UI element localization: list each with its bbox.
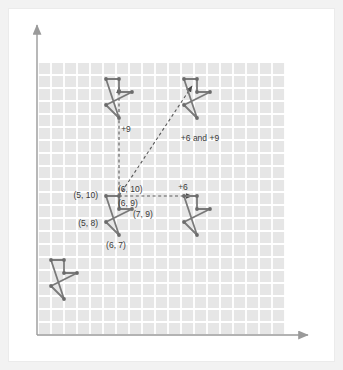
lower-left-shape-vertex bbox=[49, 258, 53, 262]
translation-label-vertical: +9 bbox=[121, 124, 131, 134]
translated-up-shape-vertex bbox=[117, 90, 121, 94]
vertex-label: (5, 10) bbox=[73, 190, 98, 200]
vertex-label: (6, 7) bbox=[106, 240, 126, 250]
translated-up-shape-vertex bbox=[104, 77, 108, 81]
lower-left-shape-vertex bbox=[62, 258, 66, 262]
translated-right-shape-vertex bbox=[182, 220, 186, 224]
original-shape-vertex bbox=[117, 233, 121, 237]
lower-left-shape-vertex bbox=[62, 271, 66, 275]
translation-diagram: (5, 10)(6, 10)(6, 9)(7, 9)(5, 8)(6, 7)+9… bbox=[0, 0, 343, 370]
vertex-label: (6, 10) bbox=[118, 184, 143, 194]
translated-diagonal-shape-vertex bbox=[195, 90, 199, 94]
vertex-label: (6, 9) bbox=[118, 198, 138, 208]
original-shape-vertex bbox=[104, 194, 108, 198]
translated-up-shape-vertex bbox=[117, 77, 121, 81]
translated-right-shape-vertex bbox=[195, 233, 199, 237]
translated-right-shape-vertex bbox=[195, 207, 199, 211]
translated-right-shape-vertex bbox=[195, 194, 199, 198]
diagram-stage: (5, 10)(6, 10)(6, 9)(7, 9)(5, 8)(6, 7)+9… bbox=[0, 0, 343, 370]
original-shape-vertex bbox=[104, 220, 108, 224]
vertex-label: (7, 9) bbox=[133, 209, 153, 219]
translated-up-shape-vertex bbox=[104, 103, 108, 107]
translated-diagonal-shape-vertex bbox=[208, 90, 212, 94]
translated-up-shape-vertex bbox=[130, 90, 134, 94]
translated-diagonal-shape-vertex bbox=[195, 77, 199, 81]
translated-right-shape-vertex bbox=[182, 194, 186, 198]
translated-diagonal-shape-vertex bbox=[182, 77, 186, 81]
lower-left-shape-vertex bbox=[75, 271, 79, 275]
translation-label-diagonal: +6 and +9 bbox=[181, 133, 220, 143]
vertex-label: (5, 8) bbox=[78, 218, 98, 228]
translated-diagonal-shape-vertex bbox=[182, 103, 186, 107]
translation-label-horizontal: +6 bbox=[178, 182, 188, 192]
lower-left-shape-vertex bbox=[62, 297, 66, 301]
translated-diagonal-shape-vertex bbox=[195, 116, 199, 120]
lower-left-shape-vertex bbox=[49, 284, 53, 288]
translated-up-shape-vertex bbox=[117, 116, 121, 120]
translated-right-shape-vertex bbox=[208, 207, 212, 211]
